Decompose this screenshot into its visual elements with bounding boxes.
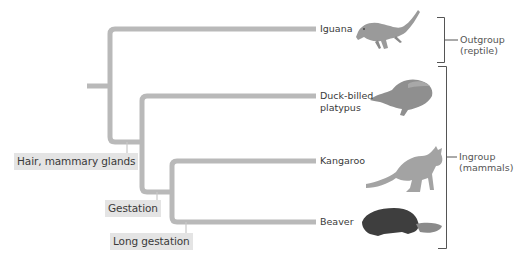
kangaroo-branch [172,161,316,192]
trait-label-gestation: Gestation [105,200,161,217]
beaver-illustration [362,208,442,236]
group-label-ingroup: Ingroup (mammals) [459,151,513,173]
taxon-label-iguana: Iguana [320,23,353,34]
trait-label-long-gestation: Long gestation [110,233,193,250]
taxon-label-platypus-line2: platypus [320,102,373,113]
group-label-outgroup: Outgroup (reptile) [460,34,505,56]
taxon-label-platypus: Duck-billed platypus [320,90,373,113]
mammals-to-therians-branch [142,142,172,192]
taxon-label-beaver: Beaver [320,216,354,227]
platypus-branch [142,96,316,142]
taxon-label-kangaroo: Kangaroo [320,155,365,166]
group-label-ingroup-line2: (mammals) [459,162,513,173]
taxon-label-beaver-text: Beaver [320,216,354,227]
cladogram: Iguana Duck-billed platypus Kangaroo Bea… [0,0,514,264]
root-to-mammals-branch [110,86,142,142]
tree-branches [0,0,514,264]
trait-label-hair-mammary-glands: Hair, mammary glands [14,153,138,170]
taxon-label-kangaroo-text: Kangaroo [320,155,365,166]
outgroup-bracket [437,18,458,63]
platypus-illustration [370,79,432,116]
beaver-branch [172,192,316,222]
taxon-label-platypus-line1: Duck-billed [320,90,373,101]
group-label-ingroup-line1: Ingroup [459,151,513,162]
taxon-label-iguana-text: Iguana [320,23,353,34]
group-label-outgroup-line1: Outgroup [460,34,505,45]
group-label-outgroup-line2: (reptile) [460,45,505,56]
iguana-illustration [356,10,420,49]
iguana-branch [110,29,316,86]
kangaroo-illustration [366,146,442,192]
